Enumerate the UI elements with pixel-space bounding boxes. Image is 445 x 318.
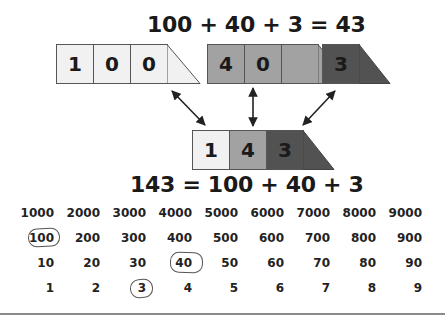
grid-cell[interactable]: 5 xyxy=(190,278,238,298)
grid-cell[interactable]: 6 xyxy=(236,278,284,298)
grid-cell[interactable]: 7000 xyxy=(282,203,330,223)
grid-cell[interactable]: 700 xyxy=(282,228,330,248)
circle-mark-100 xyxy=(28,227,61,248)
circle-mark-40 xyxy=(170,251,204,273)
grid-cell[interactable]: 400 xyxy=(144,228,192,248)
grid-cell[interactable]: 8000 xyxy=(328,203,376,223)
grid-cell[interactable]: 4000 xyxy=(144,203,192,223)
grid-cell[interactable]: 800 xyxy=(328,228,376,248)
combined-card-143[interactable]: 1 4 3 xyxy=(192,130,304,170)
bottom-divider xyxy=(0,313,445,315)
card-tail-icon xyxy=(303,130,337,170)
double-arrow-icon xyxy=(303,91,335,125)
card-digit: 4 xyxy=(229,130,266,170)
grid-cell[interactable]: 7 xyxy=(282,278,330,298)
grid-cell[interactable]: 2 xyxy=(52,278,100,298)
grid-cell[interactable]: 3000 xyxy=(98,203,146,223)
grid-cell[interactable]: 9000 xyxy=(374,203,422,223)
grid-cell[interactable]: 6000 xyxy=(236,203,284,223)
grid-row-tens: 10 20 30 40 50 60 70 80 90 xyxy=(0,253,445,273)
grid-cell[interactable]: 2000 xyxy=(52,203,100,223)
grid-cell[interactable]: 600 xyxy=(236,228,284,248)
grid-cell[interactable]: 900 xyxy=(374,228,422,248)
grid-row-thousands: 1000 2000 3000 4000 5000 6000 7000 8000 … xyxy=(0,203,445,223)
grid-cell[interactable]: 9 xyxy=(374,278,422,298)
grid-cell[interactable]: 20 xyxy=(52,253,100,273)
card-digit: 1 xyxy=(192,130,229,170)
grid-cell[interactable]: 90 xyxy=(374,253,422,273)
double-arrow-icon xyxy=(172,91,205,125)
bottom-equation: 143 = 100 + 40 + 3 xyxy=(130,172,364,197)
grid-cell[interactable]: 30 xyxy=(98,253,146,273)
grid-cell[interactable]: 60 xyxy=(236,253,284,273)
card-digit: 3 xyxy=(266,130,304,170)
grid-cell[interactable]: 1 xyxy=(6,278,54,298)
grid-cell[interactable]: 70 xyxy=(282,253,330,273)
grid-cell[interactable]: 8 xyxy=(328,278,376,298)
grid-row-ones: 1 2 3 4 5 6 7 8 9 xyxy=(0,278,445,298)
grid-cell[interactable]: 10 xyxy=(6,253,54,273)
grid-row-hundreds: 100 200 300 400 500 600 700 800 900 xyxy=(0,228,445,248)
grid-cell[interactable]: 500 xyxy=(190,228,238,248)
grid-cell[interactable]: 5000 xyxy=(190,203,238,223)
grid-cell[interactable]: 1000 xyxy=(6,203,54,223)
grid-cell[interactable]: 80 xyxy=(328,253,376,273)
grid-cell[interactable]: 300 xyxy=(98,228,146,248)
